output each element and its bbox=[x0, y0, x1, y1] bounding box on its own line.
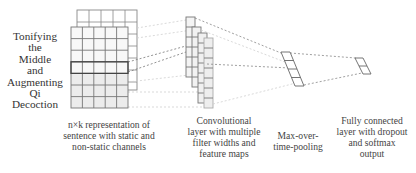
caption-line: n×k representation of bbox=[44, 119, 174, 130]
caption-line: and softmax bbox=[326, 137, 416, 148]
caption-input-representation: n×k representation of sentence with stat… bbox=[44, 119, 174, 152]
caption-line: Convolutional bbox=[176, 115, 272, 126]
feature-map-4 bbox=[204, 38, 213, 108]
conv-feature-maps bbox=[186, 17, 213, 108]
fully-connected-output-layer bbox=[355, 58, 371, 74]
input-matrix-front-channel bbox=[71, 27, 128, 108]
caption-fully-connected: Fully connected layer with dropout and s… bbox=[326, 115, 416, 159]
caption-convolutional-layer: Convolutional layer with multiple filter… bbox=[176, 115, 272, 159]
caption-line: time-pooling bbox=[270, 141, 326, 152]
caption-line: layer with dropout bbox=[326, 126, 416, 137]
caption-line: Fully connected bbox=[326, 115, 416, 126]
word-token: and bbox=[2, 65, 68, 76]
caption-max-pooling: Max-over- time-pooling bbox=[270, 130, 326, 152]
max-pooling-layer bbox=[281, 52, 304, 86]
input-sentence-label: Tonifying the Middle and Augmenting Qi D… bbox=[2, 31, 68, 111]
caption-line: Max-over- bbox=[270, 130, 326, 141]
word-token: Decoction bbox=[2, 99, 68, 110]
caption-line: output bbox=[326, 148, 416, 159]
caption-line: sentence with static and bbox=[44, 130, 174, 141]
caption-line: filter widths and bbox=[176, 137, 272, 148]
caption-line: layer with multiple bbox=[176, 126, 272, 137]
caption-line: feature maps bbox=[176, 148, 272, 159]
caption-line: non-static channels bbox=[44, 141, 174, 152]
